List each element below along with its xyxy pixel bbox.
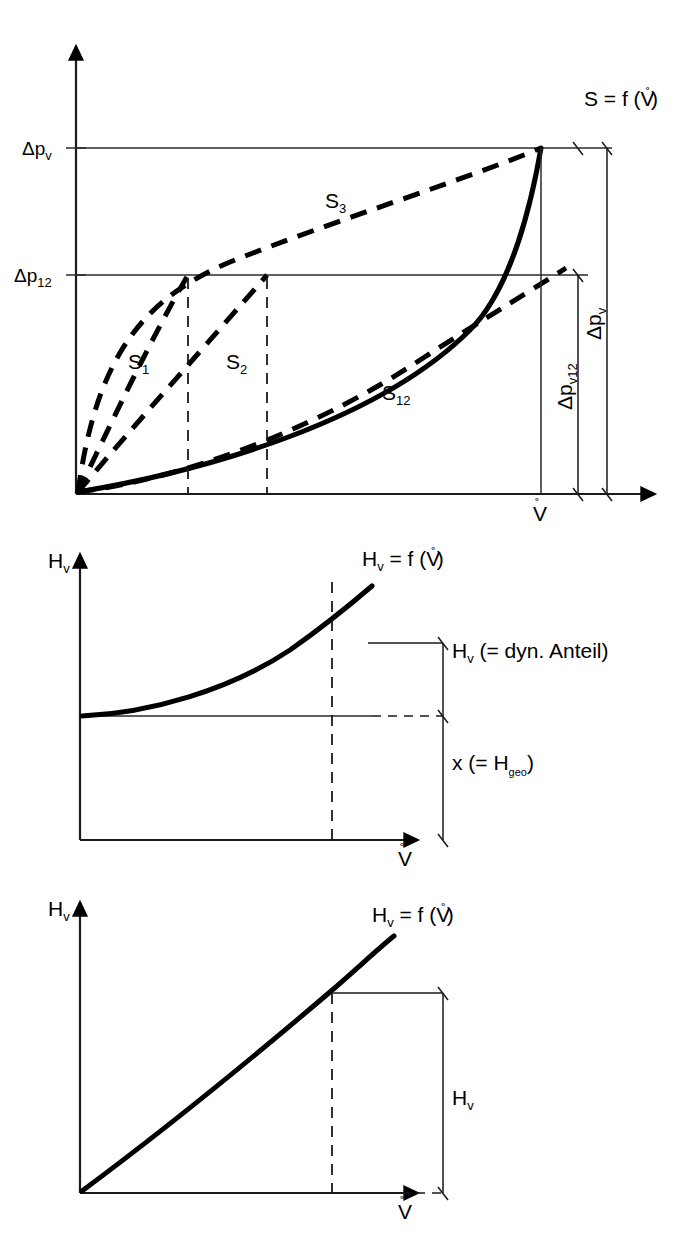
chart3-curve-label: Hv = f (V˚)	[372, 901, 454, 930]
chart2-curve-label: Hv = f (V˚)	[362, 545, 444, 574]
chart-3: Hv V˚ Hv = f (V˚) Hv	[48, 897, 474, 1223]
chart1-curve-label-s2: S2	[226, 350, 247, 377]
chart1-label-dpv: Δpv	[22, 138, 52, 163]
chart-1: Δpv Δp12 S = f (V˚) S3 S1 S2	[14, 46, 658, 525]
chart2-dim-label-upper: Hv (= dyn. Anteil)	[452, 639, 609, 666]
chart1-curve-s3	[78, 148, 541, 492]
chart1-xlabel-vdot: V˚	[533, 496, 547, 525]
chart3-ylabel: Hv	[48, 897, 70, 924]
chart2-dim-label-lower: x (= Hgeo)	[452, 751, 534, 778]
chart2-ylabel: Hv	[48, 549, 70, 576]
diagram-canvas: Δpv Δp12 S = f (V˚) S3 S1 S2	[0, 0, 687, 1241]
chart2-xlabel-vdot: V˚	[398, 841, 412, 870]
chart2-curve-hv	[82, 586, 372, 716]
chart1-curve-s-main	[78, 148, 541, 492]
chart1-dim-label-dpv: Δpv	[582, 307, 609, 340]
chart1-curve-label-main: S = f (V˚)	[584, 85, 658, 110]
chart1-label-dp12: Δp12	[14, 265, 52, 290]
chart1-curve-label-s3: S3	[325, 189, 346, 216]
chart1-dim-label-dpv12: Δpv12	[553, 363, 580, 410]
chart3-curve-hv	[82, 936, 394, 1191]
chart-2: Hv V˚ Hv = f (V˚) Hv (= dyn. Anteil) x (…	[48, 545, 609, 870]
figure-root: Δpv Δp12 S = f (V˚) S3 S1 S2	[0, 0, 687, 1241]
chart3-xlabel-vdot: V˚	[398, 1194, 412, 1223]
chart3-dim-label: Hv	[452, 1086, 474, 1113]
